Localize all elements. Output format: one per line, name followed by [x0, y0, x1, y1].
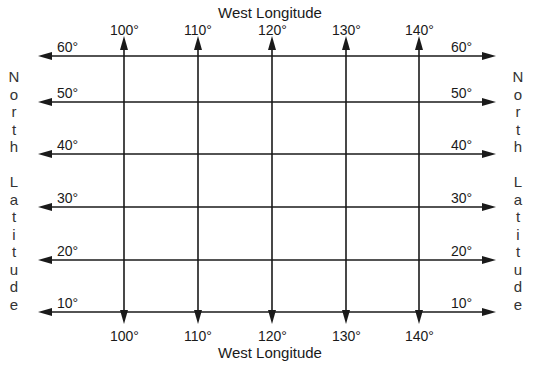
latitude-label: 10° [451, 296, 472, 310]
axis-title-letter: r [7, 103, 21, 121]
axis-title-letter [7, 156, 21, 174]
arrow-left-icon [38, 52, 52, 60]
arrow-right-icon [482, 52, 496, 60]
bottom-axis-title: West Longitude [218, 346, 322, 360]
arrow-down-icon [342, 310, 350, 324]
longitude-label: 140° [405, 329, 434, 343]
axis-title-letter: t [7, 243, 21, 261]
arrow-left-icon [38, 150, 52, 158]
arrow-up-icon [194, 36, 202, 50]
longitude-label: 120° [258, 23, 287, 37]
axis-title-letter: t [511, 121, 525, 139]
axis-title-letter: r [511, 103, 525, 121]
arrow-right-icon [482, 256, 496, 264]
arrow-right-icon [482, 98, 496, 106]
longitude-label: 130° [332, 329, 361, 343]
axis-title-letter: e [7, 296, 21, 314]
latitude-label: 50° [451, 86, 472, 100]
grid-lines [0, 0, 533, 370]
axis-title-letter: u [7, 261, 21, 279]
axis-title-letter: o [7, 86, 21, 104]
axis-title-letter: N [7, 68, 21, 86]
axis-title-letter: o [511, 86, 525, 104]
axis-title-letter: d [511, 278, 525, 296]
latitude-label: 30° [57, 191, 78, 205]
arrow-left-icon [38, 308, 52, 316]
longitude-label: 130° [332, 23, 361, 37]
arrow-down-icon [120, 310, 128, 324]
axis-title-letter: t [511, 243, 525, 261]
axis-title-letter: a [511, 191, 525, 209]
axis-title-letter: d [7, 278, 21, 296]
axis-title-letter: N [511, 68, 525, 86]
arrow-down-icon [268, 310, 276, 324]
axis-title-letter: t [7, 121, 21, 139]
latitude-label: 10° [57, 296, 78, 310]
longitude-label: 100° [110, 23, 139, 37]
latitude-longitude-grid: West Longitude West Longitude 100°110°12… [0, 0, 533, 370]
arrow-down-icon [415, 310, 423, 324]
arrow-right-icon [482, 150, 496, 158]
latitude-label: 40° [57, 138, 78, 152]
latitude-label: 30° [451, 191, 472, 205]
axis-title-letter: h [7, 138, 21, 156]
arrow-up-icon [268, 36, 276, 50]
latitude-label: 60° [451, 40, 472, 54]
axis-title-letter: u [511, 261, 525, 279]
axis-title-letter: t [511, 208, 525, 226]
arrow-left-icon [38, 98, 52, 106]
arrow-down-icon [194, 310, 202, 324]
arrow-up-icon [342, 36, 350, 50]
latitude-label: 40° [451, 138, 472, 152]
left-axis-title: North Latitude [7, 68, 21, 313]
top-axis-title: West Longitude [218, 6, 322, 20]
longitude-label: 110° [184, 23, 212, 37]
right-axis-title: North Latitude [511, 68, 525, 313]
axis-title-letter: i [7, 226, 21, 244]
axis-title-letter: h [511, 138, 525, 156]
arrow-left-icon [38, 203, 52, 211]
axis-title-letter [511, 156, 525, 174]
axis-title-letter: L [511, 173, 525, 191]
arrow-up-icon [120, 36, 128, 50]
arrow-up-icon [415, 36, 423, 50]
latitude-label: 60° [57, 40, 78, 54]
latitude-label: 50° [57, 86, 78, 100]
axis-title-letter: e [511, 296, 525, 314]
longitude-label: 120° [258, 329, 287, 343]
longitude-label: 110° [184, 329, 212, 343]
arrow-left-icon [38, 256, 52, 264]
latitude-label: 20° [57, 244, 78, 258]
latitude-label: 20° [451, 244, 472, 258]
axis-title-letter: a [7, 191, 21, 209]
arrow-right-icon [482, 308, 496, 316]
axis-title-letter: t [7, 208, 21, 226]
longitude-label: 140° [405, 23, 434, 37]
axis-title-letter: L [7, 173, 21, 191]
axis-title-letter: i [511, 226, 525, 244]
longitude-label: 100° [110, 329, 139, 343]
arrow-right-icon [482, 203, 496, 211]
